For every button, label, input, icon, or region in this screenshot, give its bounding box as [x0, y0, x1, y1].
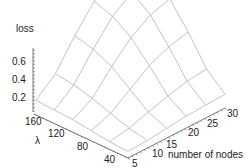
x-tick-10: 10 [152, 148, 164, 159]
z-axis-label: loss [16, 23, 34, 34]
x-tick-25: 25 [207, 118, 219, 129]
z-tick-0.4: 0.4 [12, 74, 26, 85]
z-tick-0.6: 0.6 [12, 56, 26, 67]
x-tick-30: 30 [227, 108, 239, 119]
y-axis-label: λ [35, 135, 40, 146]
x-axis-label: number of nodes [168, 149, 243, 160]
y-tick-120: 120 [48, 128, 65, 139]
z-tick-0.2: 0.2 [12, 92, 26, 103]
y-tick-80: 80 [77, 141, 89, 152]
nodes-axis: 5 10 15 20 25 30 number of nodes [132, 108, 243, 168]
y-tick-40: 40 [104, 154, 116, 165]
z-axis: loss 0.6 0.4 0.2 [12, 23, 35, 112]
lambda-axis: 160 120 80 40 λ [25, 116, 116, 165]
x-tick-5: 5 [132, 158, 138, 168]
surface-plot: loss 0.6 0.4 0.2 160 120 80 40 λ 5 10 15… [0, 0, 251, 168]
y-tick-160: 160 [25, 116, 42, 127]
x-tick-20: 20 [188, 127, 200, 138]
